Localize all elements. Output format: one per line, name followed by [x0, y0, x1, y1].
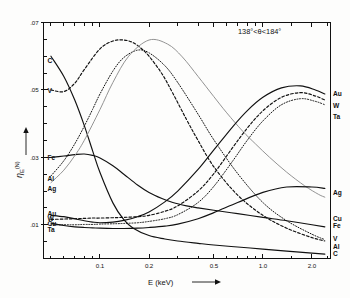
- series-label-right-ta: Ta: [333, 113, 341, 120]
- curve-al: [51, 50, 325, 240]
- y-tick-label: .05: [30, 86, 39, 93]
- x-axis-major-ticks: 0.10.20.51.02.0: [96, 23, 317, 269]
- angle-range-annotation: 138°<θ<184°: [238, 27, 281, 36]
- x-axis-title: E (keV): [148, 278, 221, 287]
- x-tick-label: 0.2: [145, 262, 154, 269]
- x-tick-label: 0.1: [96, 262, 105, 269]
- left-series-labels: CVFeAlAgAuWCuTa: [48, 57, 57, 233]
- y-tick-label: .07: [30, 19, 39, 26]
- figure-container: 0.10.20.51.02.0 .01.03.05.07 CVFeAlAgAuW…: [0, 0, 350, 298]
- chart-plot: 0.10.20.51.02.0 .01.03.05.07 CVFeAlAgAuW…: [0, 0, 350, 298]
- series-label-right-ag: Ag: [333, 189, 342, 197]
- x-tick-label: 0.5: [210, 262, 219, 269]
- x-axis-arrow-head: [215, 279, 221, 284]
- curve-fe: [51, 154, 325, 227]
- y-axis-title-text: ηE(N): [14, 161, 26, 178]
- series-label-right-w: W: [333, 102, 340, 109]
- series-label-right-fe: Fe: [333, 222, 341, 229]
- y-axis-subscript: E: [19, 169, 25, 173]
- y-tick-label: .03: [30, 154, 39, 161]
- series-label-right-au: Au: [333, 90, 342, 97]
- x-axis-title-text: E (keV): [148, 278, 174, 287]
- axis-frame: [44, 23, 331, 259]
- series-label-right-cu: Cu: [333, 215, 342, 222]
- series-label-left-al: Al: [48, 175, 55, 182]
- series-label-left-ag: Ag: [48, 185, 57, 193]
- y-tick-label: .01: [30, 221, 39, 228]
- data-curves: [51, 39, 325, 254]
- curve-v: [51, 40, 325, 241]
- curve-au: [51, 86, 325, 223]
- x-tick-label: 2.0: [308, 262, 317, 269]
- series-label-left-v: V: [48, 87, 53, 94]
- series-label-right-c: C: [333, 250, 338, 257]
- x-tick-label: 1.0: [259, 262, 268, 269]
- series-label-left-fe: Fe: [48, 154, 56, 161]
- y-axis-title: ηE(N): [14, 127, 29, 178]
- series-label-left-c: C: [48, 57, 53, 64]
- series-label-left-ta: Ta: [48, 226, 56, 233]
- y-axis-superscript: (N): [14, 161, 20, 169]
- y-axis-arrow-head: [23, 127, 28, 133]
- curve-ag: [51, 39, 325, 197]
- right-series-labels: AuWTaAgCuFeVAlC: [333, 90, 342, 257]
- series-label-right-v: V: [333, 235, 338, 242]
